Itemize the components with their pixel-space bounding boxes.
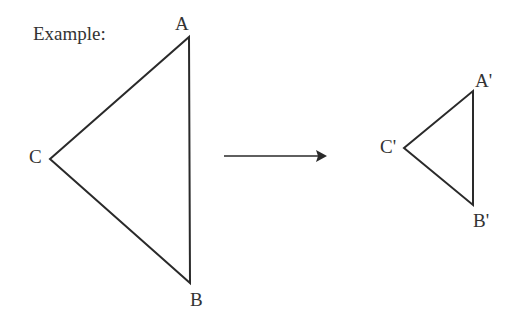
vertex-label-b: B [190,289,203,310]
dilation-diagram: Example: A B C A' B' C' [0,0,518,325]
vertex-label-c-prime: C' [380,136,396,157]
vertex-label-b-prime: B' [473,210,489,231]
triangle-abc [50,37,190,283]
vertex-label-a-prime: A' [475,70,492,91]
vertex-label-c: C [29,146,42,167]
vertex-label-a: A [175,13,189,34]
example-heading: Example: [33,23,106,44]
triangle-abc-prime [404,91,473,205]
